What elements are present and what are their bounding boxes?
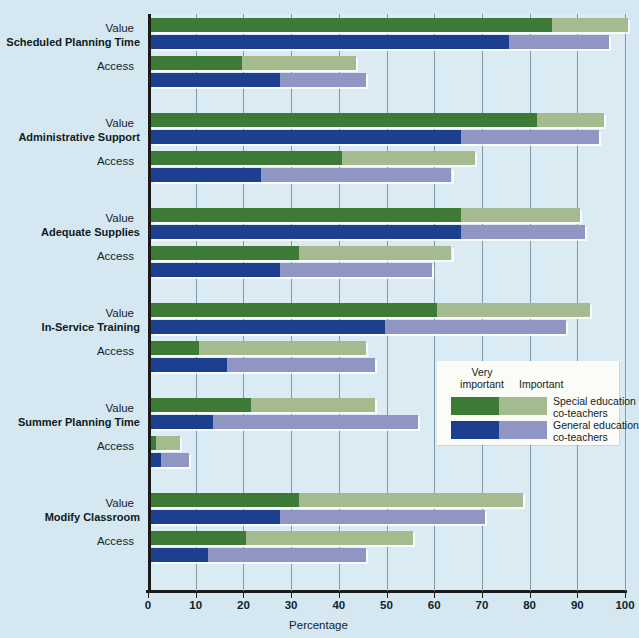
bar-segment-important — [299, 493, 523, 507]
x-axis-tick-label: 100 — [615, 599, 634, 611]
bar-segment-very-important — [151, 531, 246, 545]
legend-headers: Very important Important — [447, 366, 617, 396]
legend-label-general-education: General education co-teachers — [553, 420, 639, 443]
x-axis-tick-label: 20 — [237, 599, 250, 611]
measure-label: Access — [0, 345, 134, 357]
category-label: Adequate Supplies — [0, 226, 140, 238]
legend-header-very-important-line2: important — [460, 378, 504, 390]
bar-segment-very-important — [151, 113, 537, 127]
bar-segment-important — [461, 208, 580, 222]
legend-swatch-special-education — [451, 397, 547, 415]
x-axis-tick — [530, 591, 531, 598]
bar-segment-important — [385, 320, 566, 334]
bar-general — [151, 225, 585, 239]
bar-general — [151, 73, 366, 87]
x-axis-tick — [577, 591, 578, 598]
category-label: In-Service Training — [0, 321, 140, 333]
category-label: Scheduled Planning Time — [0, 36, 140, 48]
bar-segment-very-important — [151, 398, 251, 412]
bar-segment-important — [437, 303, 590, 317]
x-axis-tick — [387, 591, 388, 598]
bar-segment-very-important — [151, 358, 227, 372]
category-label: Summer Planning Time — [0, 416, 140, 428]
chart-legend: Very important Important Special educati… — [437, 361, 619, 445]
bar-general — [151, 358, 375, 372]
bar-segment-important — [280, 263, 433, 277]
gridline — [625, 14, 626, 591]
bar-segment-important — [213, 415, 418, 429]
bar-general — [151, 415, 418, 429]
bar-segment-very-important — [151, 548, 208, 562]
x-axis-tick — [243, 591, 244, 598]
x-axis-tick-label: 10 — [189, 599, 202, 611]
legend-header-important: Important — [519, 379, 563, 391]
bar-segment-very-important — [151, 18, 552, 32]
x-axis-tick — [196, 591, 197, 598]
x-axis-tick-label: 0 — [145, 599, 151, 611]
bar-special — [151, 18, 628, 32]
bar-segment-very-important — [151, 303, 437, 317]
measure-label: Value — [0, 307, 134, 319]
bar-segment-very-important — [151, 168, 261, 182]
bar-segment-very-important — [151, 510, 280, 524]
x-axis-tick-label: 80 — [523, 599, 536, 611]
legend-swatch-general-important — [499, 421, 547, 439]
x-axis-tick — [482, 591, 483, 598]
bar-segment-very-important — [151, 263, 280, 277]
bar-segment-important — [299, 246, 452, 260]
legend-swatch-general-education — [451, 421, 547, 439]
bar-general — [151, 168, 452, 182]
measure-label: Access — [0, 535, 134, 547]
measure-label: Value — [0, 497, 134, 509]
legend-swatch-special-important — [499, 397, 547, 415]
measure-label: Value — [0, 402, 134, 414]
bar-segment-important — [227, 358, 375, 372]
legend-label-general-line2: co-teachers — [553, 431, 608, 443]
bar-special — [151, 303, 590, 317]
bar-general — [151, 130, 599, 144]
bar-segment-very-important — [151, 208, 461, 222]
bar-special — [151, 341, 366, 355]
bar-segment-important — [261, 168, 452, 182]
category-label: Administrative Support — [0, 131, 140, 143]
bar-segment-important — [509, 35, 609, 49]
bar-special — [151, 246, 452, 260]
bar-segment-important — [280, 73, 366, 87]
x-axis-tick-label: 70 — [475, 599, 488, 611]
bar-special — [151, 113, 604, 127]
bar-segment-important — [251, 398, 375, 412]
x-axis-tick — [291, 591, 292, 598]
bar-segment-important — [461, 225, 585, 239]
bar-segment-important — [342, 151, 476, 165]
bar-special — [151, 151, 475, 165]
bar-segment-very-important — [151, 341, 199, 355]
measure-label: Access — [0, 250, 134, 262]
x-axis-tick — [339, 591, 340, 598]
legend-label-special-line1: Special education — [553, 395, 636, 407]
bar-special — [151, 493, 523, 507]
bar-segment-important — [280, 510, 485, 524]
bar-special — [151, 436, 180, 450]
legend-swatch-special-very-important — [451, 397, 499, 415]
legend-label-special-line2: co-teachers — [553, 407, 608, 419]
measure-label: Value — [0, 117, 134, 129]
bar-segment-very-important — [151, 493, 299, 507]
category-label: Modify Classroom — [0, 511, 140, 523]
legend-header-very-important: Very important — [451, 367, 513, 390]
bar-segment-very-important — [151, 415, 213, 429]
measure-label: Access — [0, 440, 134, 452]
bar-segment-important — [242, 56, 356, 70]
bar-segment-important — [156, 436, 180, 450]
x-axis-tick-label: 90 — [571, 599, 584, 611]
bar-segment-very-important — [151, 320, 385, 334]
x-axis-tick-label: 30 — [285, 599, 298, 611]
bar-segment-very-important — [151, 35, 509, 49]
bar-general — [151, 35, 609, 49]
x-axis-tick-label: 40 — [332, 599, 345, 611]
bar-segment-very-important — [151, 56, 242, 70]
x-axis-tick-label: 50 — [380, 599, 393, 611]
bar-segment-very-important — [151, 130, 461, 144]
legend-header-very-important-line1: Very — [471, 366, 492, 378]
bar-segment-important — [208, 548, 365, 562]
bar-segment-important — [199, 341, 366, 355]
